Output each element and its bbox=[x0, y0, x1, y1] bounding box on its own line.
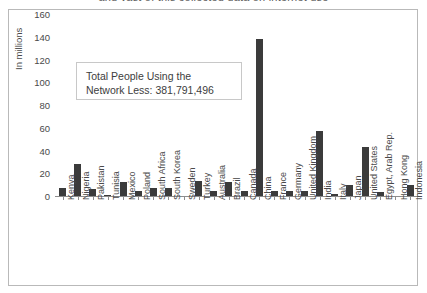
x-axis-tick-label: Pakistan bbox=[96, 165, 106, 200]
x-axis-tick-label: Indonesia bbox=[414, 161, 424, 200]
callout-line-1: Total People Using the bbox=[86, 69, 233, 83]
x-axis-tick bbox=[168, 197, 169, 200]
x-axis-tick bbox=[305, 197, 306, 200]
x-axis-tick bbox=[274, 197, 275, 200]
x-axis-tick-label: Germany bbox=[293, 163, 303, 200]
x-axis-tick bbox=[395, 197, 396, 200]
x-axis-tick bbox=[123, 197, 124, 200]
x-axis-tick bbox=[184, 197, 185, 200]
x-axis-tick bbox=[214, 197, 215, 200]
x-axis-tick-label: Japan bbox=[353, 175, 363, 200]
x-axis-tick bbox=[199, 197, 200, 200]
x-axis-tick bbox=[93, 197, 94, 200]
y-axis-tick-label: 20 bbox=[4, 168, 50, 179]
plot-area bbox=[55, 14, 418, 197]
x-axis-tick-label: United States bbox=[369, 146, 379, 200]
x-axis-tick-label: South Africa bbox=[157, 151, 167, 200]
x-axis-tick-label: Italy bbox=[338, 183, 348, 200]
x-axis-tick-label: Poland bbox=[142, 172, 152, 200]
x-axis-tick-label: Nigeria bbox=[81, 171, 91, 200]
x-axis-tick bbox=[108, 197, 109, 200]
y-axis-tick-label: 0 bbox=[4, 191, 50, 202]
x-axis-tick-label: Brazil bbox=[232, 177, 242, 200]
x-axis-tick bbox=[153, 197, 154, 200]
chart-screenshot: and vast of this collected data on inter… bbox=[0, 0, 427, 293]
x-axis-tick bbox=[335, 197, 336, 200]
x-axis-tick bbox=[320, 197, 321, 200]
x-axis-tick-label: Australia bbox=[217, 165, 227, 200]
y-axis-tick-label: 140 bbox=[4, 31, 50, 42]
callout-line-2: Network Less: 381,791,496 bbox=[86, 83, 233, 97]
y-axis-tick-label: 80 bbox=[4, 100, 50, 111]
x-axis-tick-label: Tunisia bbox=[111, 171, 121, 200]
x-axis-tick bbox=[244, 197, 245, 200]
y-axis-tick-label: 60 bbox=[4, 122, 50, 133]
x-axis-tick-label: France bbox=[278, 172, 288, 200]
x-axis-tick-label: India bbox=[323, 180, 333, 200]
x-axis-tick-label: Turkey bbox=[202, 173, 212, 200]
x-axis-tick-label: Canada bbox=[248, 168, 258, 200]
x-axis-tick bbox=[259, 197, 260, 200]
y-axis-tick-label: 120 bbox=[4, 54, 50, 65]
x-axis-tick bbox=[350, 197, 351, 200]
x-axis-tick-label: Kenya bbox=[66, 174, 76, 200]
x-axis-tick-label: Hong Kong bbox=[399, 155, 409, 200]
x-axis-tick-label: South Korea bbox=[172, 150, 182, 200]
x-axis-tick bbox=[365, 197, 366, 200]
x-axis-tick bbox=[138, 197, 139, 200]
x-axis-tick bbox=[289, 197, 290, 200]
x-axis-tick bbox=[380, 197, 381, 200]
x-axis-tick-label: United Kingdom bbox=[308, 136, 318, 200]
callout-box: Total People Using the Network Less: 381… bbox=[76, 62, 242, 100]
y-axis-ticks: 160140120100806040200 bbox=[0, 0, 50, 293]
y-axis-tick-label: 100 bbox=[4, 77, 50, 88]
x-axis-tick-label: Mexico bbox=[127, 171, 137, 200]
y-axis-tick-label: 40 bbox=[4, 145, 50, 156]
y-axis-tick-label: 160 bbox=[4, 9, 50, 20]
x-axis-tick bbox=[63, 197, 64, 200]
clipped-heading: and vast of this collected data on inter… bbox=[0, 0, 427, 1]
x-axis-tick bbox=[78, 197, 79, 200]
x-axis-tick-label: Egypt, Arab Rep. bbox=[384, 132, 394, 200]
x-axis-tick-label: Sweden bbox=[187, 167, 197, 200]
x-axis-tick bbox=[410, 197, 411, 200]
x-axis-tick-label: China bbox=[263, 176, 273, 200]
x-axis-tick bbox=[229, 197, 230, 200]
